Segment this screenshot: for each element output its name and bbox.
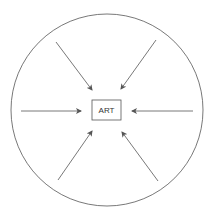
diagram-canvas: ART: [0, 0, 210, 215]
arrow-top-left-icon: [56, 42, 92, 90]
center-label: ART: [99, 106, 115, 115]
arrow-bottom-right-icon: [122, 132, 158, 181]
arrow-top-right-icon: [121, 40, 156, 89]
arrow-bottom-left-icon: [58, 131, 92, 180]
